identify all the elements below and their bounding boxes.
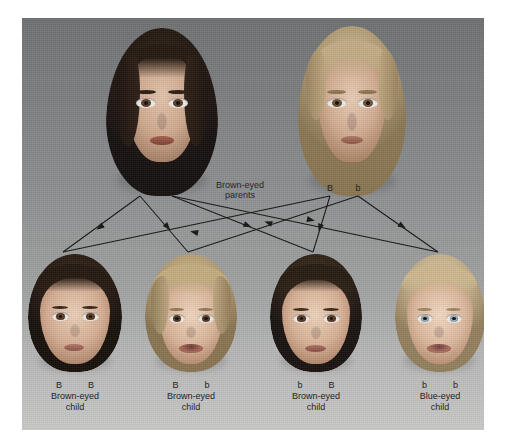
child-1-eye-left [52,312,69,321]
child-2-nose [186,326,196,338]
child-3-iris-left [297,315,306,323]
child-4-iris-right [450,315,458,323]
child-1-iris-right [86,313,95,321]
child-4-iris-left [421,315,429,323]
child-4-brow-right [446,308,461,311]
child-3-pupil-left [300,317,304,320]
child-2-eye-right [198,314,214,323]
child-4-eye-right [446,314,462,323]
child-1-portrait [28,254,122,372]
child-4-pupil-left [423,317,427,320]
child-2-allele-right: b [205,380,210,390]
arrowhead-5 [190,228,199,236]
arrowhead-3 [243,221,253,230]
child-1-iris-left [56,313,65,321]
child-4-genotype: b b [385,380,484,390]
child-4-allele-left: b [422,380,427,390]
child-3-mouth [305,345,326,352]
child-2-head [145,254,237,372]
child-1-allele-left: B [56,380,62,390]
child-1-brow-left [52,306,68,309]
child-2-iris-right [202,315,210,323]
child-4-caption-line2: child [385,402,484,413]
child-2-eye-left [169,314,185,323]
child-1-pupil-left [59,315,63,318]
child-3-caption-line2: child [261,402,371,413]
child-2-caption-line1: Brown-eyed [136,391,246,402]
child-4-nose [434,326,444,338]
child-3-nose [311,326,321,339]
child-1-allele-right: B [88,380,94,390]
child-3-caption-line1: Brown-eyed [261,391,371,402]
child-2-caption: Brown-eyed child [136,391,246,412]
inheritance-diagram-panel: B b B b Brown-eyed parents [22,18,484,430]
child-3-brow-left [293,308,309,311]
child-1-caption-line1: Brown-eyed [22,391,130,402]
child-1-caption-line2: child [22,402,130,413]
child-2-pupil-right [204,317,208,320]
child-2-portrait [145,254,237,372]
child-4-allele-right: b [453,380,458,390]
child-1-caption: Brown-eyed child [22,391,130,412]
arrowheads [95,216,408,236]
child-4-mouth [427,344,451,353]
child-2-brow-right [198,308,213,311]
child-4-caption: Blue-eyed child [385,391,484,412]
child-4-portrait [395,254,484,372]
child-4-eye-left [417,314,433,323]
child-2-pupil-left [175,317,179,320]
child-3-genotype: b B [261,380,371,390]
child-4-brow-left [417,308,432,311]
edge-father-B-to-child-1 [63,196,330,252]
child-1-eye-right [82,312,99,321]
child-3-iris-right [327,315,336,323]
child-4-pupil-right [452,317,456,320]
child-1-head [28,254,122,372]
child-4-caption-line1: Blue-eyed [385,391,484,402]
child-1-mouth [64,344,84,351]
child-1-genotype: B B [22,380,130,390]
child-2-genotype: B b [136,380,246,390]
child-1-brow-right [82,306,98,309]
child-2-caption-line2: child [136,402,246,413]
child-4-head [395,254,484,372]
child-3-caption: Brown-eyed child [261,391,371,412]
child-1-pupil-right [89,315,93,318]
child-1-nose [70,324,80,337]
child-3-brow-right [323,308,339,311]
child-2-iris-left [173,315,181,323]
child-3-eye-right [323,314,340,323]
child-3-eye-left [293,314,310,323]
edge-father-B-to-child-3 [313,196,330,252]
child-3-allele-left: b [297,380,302,390]
child-2-mouth [179,344,203,353]
child-3-pupil-right [330,317,334,320]
edge-mother-B-to-child-2 [140,196,188,252]
child-3-portrait [270,254,362,372]
child-3-allele-right: B [329,380,335,390]
child-3-head [270,254,362,372]
arrowhead-4 [306,216,315,224]
child-2-allele-left: B [172,380,178,390]
child-2-brow-left [169,308,184,311]
